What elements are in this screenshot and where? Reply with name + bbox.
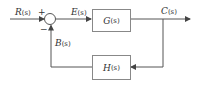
error-label: E(s) xyxy=(71,8,87,17)
forward-block-g: G(s) xyxy=(92,9,131,32)
feedback-branch xyxy=(131,19,163,67)
feedback-block-h: H(s) xyxy=(92,55,131,80)
output-label: C(s) xyxy=(161,7,177,16)
feedback-signal-label: B(s) xyxy=(55,39,71,48)
summing-junction xyxy=(45,14,56,25)
input-label: R(s) xyxy=(15,8,31,17)
plus-sign: + xyxy=(38,8,46,17)
minus-sign: − xyxy=(40,25,48,34)
